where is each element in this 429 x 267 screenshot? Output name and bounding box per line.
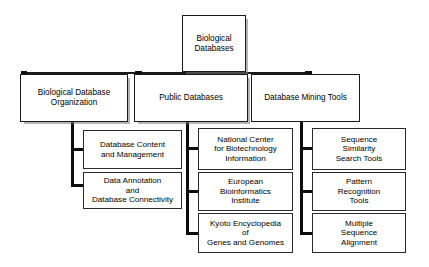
node-biological-database-organization-label: Biological Database Organization <box>36 88 112 107</box>
node-biological-databases[interactable]: Biological Databases <box>182 15 246 72</box>
node-multiple-sequence-alignment-label: Multiple Sequence Alignment <box>339 219 379 248</box>
connector-trunk-branch-2 <box>186 122 189 234</box>
connector-stub-branch-1-child-2 <box>71 184 83 187</box>
connector-stub-branch-3-child-2 <box>300 190 312 193</box>
connector-stub-branch-2-child-2 <box>186 190 198 193</box>
node-database-content-and-management-label: Database Content and Management <box>98 140 167 159</box>
node-national-center-for-biotechnology-information-label: National Center for Biotechnology Inform… <box>212 135 279 164</box>
node-multiple-sequence-alignment[interactable]: Multiple Sequence Alignment <box>312 213 406 253</box>
diagram-canvas: Biological Databases Biological Database… <box>0 0 429 267</box>
connector-trunk-branch-1 <box>71 122 74 186</box>
node-database-content-and-management[interactable]: Database Content and Management <box>83 130 182 169</box>
connector-stub-branch-2-child-3 <box>186 232 198 235</box>
node-pattern-recognition-tools[interactable]: Pattern Recognition Tools <box>312 172 406 211</box>
connector-stub-branch-1-child-1 <box>71 148 83 151</box>
node-european-bioinformatics-institute-label: European Bioinformatics Institute <box>218 177 273 206</box>
node-national-center-for-biotechnology-information[interactable]: National Center for Biotechnology Inform… <box>198 128 293 170</box>
node-data-annotation-and-database-connectivity-label: Data Annotation and Database Connectivit… <box>90 176 175 205</box>
node-kyoto-encyclopedia-of-genes-and-genomes[interactable]: Kyoto Encyclopedia of Genes and Genomes <box>198 213 293 253</box>
node-kyoto-encyclopedia-of-genes-and-genomes-label: Kyoto Encyclopedia of Genes and Genomes <box>205 219 286 248</box>
node-public-databases-label: Public Databases <box>157 93 225 103</box>
connector-stub-branch-2-child-1 <box>186 147 198 150</box>
node-public-databases[interactable]: Public Databases <box>134 74 248 122</box>
node-pattern-recognition-tools-label: Pattern Recognition Tools <box>336 177 383 206</box>
connector-stub-branch-3-child-3 <box>300 232 312 235</box>
node-sequence-similarity-search-tools-label: Sequence Similarity Search Tools <box>334 135 385 164</box>
node-biological-databases-label: Biological Databases <box>192 34 235 53</box>
node-sequence-similarity-search-tools[interactable]: Sequence Similarity Search Tools <box>312 128 406 170</box>
node-database-mining-tools[interactable]: Database Mining Tools <box>251 74 360 122</box>
connector-stub-branch-3-child-1 <box>300 147 312 150</box>
node-european-bioinformatics-institute[interactable]: European Bioinformatics Institute <box>198 172 293 211</box>
node-biological-database-organization[interactable]: Biological Database Organization <box>20 74 128 122</box>
connector-trunk-branch-3 <box>300 122 303 234</box>
node-data-annotation-and-database-connectivity[interactable]: Data Annotation and Database Connectivit… <box>83 172 182 209</box>
node-database-mining-tools-label: Database Mining Tools <box>262 93 349 103</box>
